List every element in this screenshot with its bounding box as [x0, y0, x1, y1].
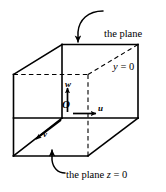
edge-top-left-diagonal	[14, 45, 63, 75]
callout-plane-z-eq: = 0	[111, 169, 127, 180]
axis-label-v: v	[43, 130, 47, 139]
callout-plane-y-eq: = 0	[118, 61, 134, 72]
callout-plane-y-equation: y = 0	[104, 61, 142, 72]
axis-arrow-v	[36, 120, 61, 139]
callout-plane-y-line1: the plane	[104, 28, 142, 39]
edge-bottom-right-diagonal	[88, 118, 138, 156]
callout-leaders	[52, 11, 103, 173]
figure-container: w O u v the plane y = 0 the plane z = 0	[0, 0, 166, 192]
callout-plane-z-prefix: the plane	[66, 169, 107, 180]
callout-plane-z: the plane z = 0	[66, 169, 127, 180]
leader-plane-z	[52, 150, 65, 173]
callout-plane-y: the plane y = 0	[104, 6, 142, 94]
axis-label-u: u	[98, 104, 103, 113]
leader-plane-y	[78, 11, 103, 42]
axis-label-origin: O	[62, 99, 70, 111]
axis-label-w: w	[65, 80, 71, 89]
